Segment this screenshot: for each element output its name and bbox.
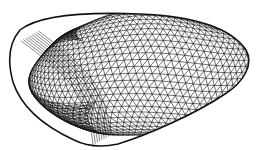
mesh-lattice [29, 9, 258, 137]
mesh-fold-ridge [21, 31, 111, 145]
wireframe-mesh-image [0, 0, 258, 150]
mesh-figure [0, 0, 258, 150]
